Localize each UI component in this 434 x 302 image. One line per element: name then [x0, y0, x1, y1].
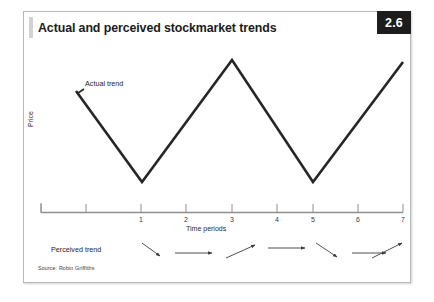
- source-note: Source: Robin Griffiths: [38, 265, 94, 271]
- actual-trend-label: Actual trend: [85, 79, 123, 88]
- x-tick-label-2: 2: [179, 216, 193, 223]
- figure-container: Actual and perceived stockmarket trends …: [0, 0, 434, 302]
- x-tick-label-1: 1: [134, 216, 148, 223]
- x-tick-label-7: 7: [396, 216, 410, 223]
- x-axis-ticks: [41, 204, 403, 212]
- perceived-trend-arrows: [142, 243, 402, 258]
- x-axis-label: Time periods: [186, 225, 226, 232]
- perceived-arrow-3: [226, 245, 255, 258]
- x-tick-label-3: 3: [225, 216, 239, 223]
- perceived-arrow-7: [372, 243, 402, 258]
- actual-trend-leader: [78, 89, 84, 93]
- x-tick-label-6: 6: [351, 216, 365, 223]
- x-tick-label-4: 4: [270, 216, 284, 223]
- y-axis-label: Price: [27, 99, 41, 139]
- x-tick-label-5: 5: [306, 216, 320, 223]
- chart-plot: [0, 0, 434, 302]
- perceived-arrow-5: [316, 243, 337, 257]
- actual-trend-line: [76, 60, 403, 182]
- perceived-arrow-1: [142, 243, 160, 256]
- perceived-trend-label: Perceived trend: [51, 245, 101, 254]
